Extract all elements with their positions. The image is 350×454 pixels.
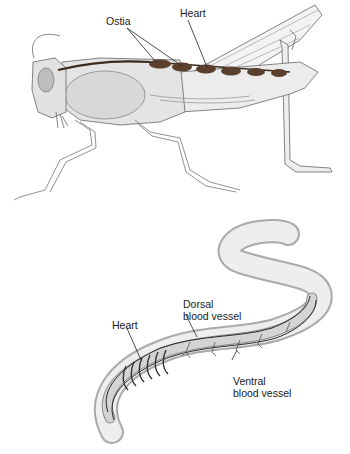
label-earthworm-heart: Heart: [112, 319, 138, 331]
label-ostia: Ostia: [106, 15, 131, 27]
dorsal-line1: Dorsal: [183, 298, 241, 310]
circulatory-diagram: [0, 0, 350, 454]
label-ventral-blood-vessel: Ventral blood vessel: [233, 375, 291, 399]
ventral-line2: blood vessel: [233, 387, 291, 399]
label-grasshopper-heart: Heart: [180, 7, 206, 19]
earthworm-illustration: [106, 231, 321, 432]
dorsal-line2: blood vessel: [183, 310, 241, 322]
ventral-line1: Ventral: [233, 375, 291, 387]
grasshopper-illustration: [14, 5, 332, 200]
label-dorsal-blood-vessel: Dorsal blood vessel: [183, 298, 241, 322]
